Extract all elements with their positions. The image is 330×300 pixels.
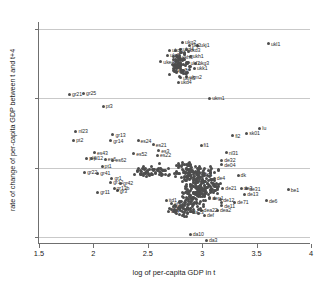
data-point: [210, 178, 213, 181]
data-point: [201, 189, 204, 192]
data-point-label: dk: [241, 172, 246, 178]
data-point-label: de71: [237, 199, 248, 205]
data-point: [145, 175, 148, 178]
data-point-label: ukk1: [197, 65, 208, 71]
data-point: [219, 182, 222, 185]
data-point: [208, 97, 211, 100]
data-point: [72, 139, 75, 142]
data-point: [210, 187, 213, 190]
y-axis-tick: [35, 237, 39, 238]
data-point: [173, 63, 176, 66]
data-point: [216, 209, 219, 212]
data-point: [200, 144, 203, 147]
data-point: [109, 181, 112, 184]
gridline-horizontal: [39, 98, 310, 99]
data-point-label: pt2: [76, 137, 83, 143]
data-point-label: lu: [262, 125, 266, 131]
data-point: [137, 139, 140, 142]
data-point: [194, 183, 197, 186]
data-point: [195, 187, 198, 190]
data-point: [216, 188, 219, 191]
gridline-horizontal: [39, 237, 310, 238]
data-point-label: def: [207, 212, 214, 218]
data-point: [175, 212, 178, 215]
data-point: [183, 176, 186, 179]
data-point: [158, 162, 161, 165]
data-point-label: ukd4: [181, 79, 192, 85]
data-point-label: es22: [160, 152, 171, 158]
data-point: [220, 163, 223, 166]
data-point: [179, 204, 182, 207]
x-axis-tick: [311, 244, 312, 248]
data-point: [245, 132, 248, 135]
data-point: [167, 167, 170, 170]
data-point-label: ukm1: [212, 95, 224, 101]
data-point-label: de13: [247, 191, 258, 197]
data-point: [237, 174, 240, 177]
data-point: [189, 164, 192, 167]
data-point-label: de6: [269, 198, 277, 204]
data-point: [194, 197, 197, 200]
data-point: [178, 172, 181, 175]
data-point: [213, 171, 216, 174]
data-point: [68, 93, 71, 96]
data-point: [167, 174, 170, 177]
data-point: [213, 197, 216, 200]
data-point: [152, 143, 155, 146]
data-point: [188, 178, 191, 181]
data-point: [181, 41, 184, 44]
data-point-label: dea2: [220, 207, 231, 213]
data-point-label: fi2: [235, 133, 240, 139]
data-point-label: pt3: [106, 103, 113, 109]
data-point-label: ukj1: [200, 42, 209, 48]
data-point: [132, 152, 135, 155]
data-point: [240, 187, 243, 190]
data-point: [189, 233, 192, 236]
data-point: [74, 130, 77, 133]
data-point: [243, 193, 246, 196]
data-point-label: da3: [209, 237, 217, 243]
data-point: [133, 173, 136, 176]
data-point: [205, 239, 208, 242]
data-point: [109, 139, 112, 142]
x-axis-tick-label: 2: [78, 249, 108, 258]
data-point: [174, 175, 177, 178]
data-point: [202, 199, 205, 202]
plot-canvas: ukl1ukg2ukj1ukj2ukd4ukd3ukd6ukd5ukh1ukh3…: [39, 22, 310, 243]
data-point: [82, 92, 85, 95]
data-point-label: nl31: [229, 150, 238, 156]
data-point-label: be1: [291, 187, 299, 193]
data-point-label: fi1: [204, 142, 209, 148]
data-point: [156, 154, 159, 157]
data-point: [178, 75, 181, 78]
data-point-label: pt1: [105, 163, 112, 169]
data-point: [206, 174, 209, 177]
data-point: [197, 192, 200, 195]
data-point-label: gr21: [72, 91, 82, 97]
data-point: [85, 157, 88, 160]
data-point: [231, 134, 234, 137]
data-point: [206, 182, 209, 185]
plot-area: ukl1ukg2ukj1ukj2ukd4ukd3ukd6ukd5ukh1ukh3…: [38, 22, 310, 244]
data-point: [209, 165, 212, 168]
data-point: [90, 157, 93, 160]
data-point: [186, 188, 189, 191]
data-point: [104, 158, 107, 161]
x-axis-tick: [257, 244, 258, 248]
data-point-label: da10: [193, 231, 204, 237]
data-point-label: gr13: [115, 132, 125, 138]
data-point-label: nl23: [78, 128, 87, 134]
data-point: [195, 202, 198, 205]
data-point: [189, 207, 192, 210]
data-point: [188, 68, 191, 71]
data-point: [183, 51, 186, 54]
y-axis-title: rate of change of per-capita GDP between…: [6, 10, 20, 250]
data-point: [96, 191, 99, 194]
data-point: [182, 192, 185, 195]
x-axis-tick-label: 2.5: [133, 249, 163, 258]
data-point: [201, 178, 204, 181]
data-point: [186, 71, 189, 74]
data-point: [202, 173, 205, 176]
data-point: [206, 186, 209, 189]
data-point: [225, 151, 228, 154]
